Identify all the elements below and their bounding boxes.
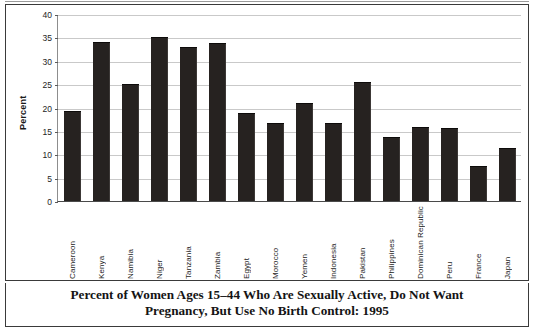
y-axis-tick-labels: 0510152025303540 [28,15,52,202]
bar [470,166,487,201]
y-axis-tick-label: 10 [30,150,52,160]
bar [383,137,400,201]
y-axis-tick-label: 25 [30,80,52,90]
y-axis-tick-label: 40 [30,10,52,20]
chart-panel: Percent 0510152025303540 CameroonKenyaNa… [5,4,529,281]
x-axis-category-label: France [474,205,483,279]
bar [412,127,429,201]
y-axis-tick-label: 5 [30,174,52,184]
bar [151,37,168,201]
bar [64,111,81,201]
x-axis-category-label: Japan [503,205,512,279]
x-axis-category-label: Zambia [213,205,222,279]
x-axis-category-label: Tanzania [184,205,193,279]
y-axis-tick-mark [55,38,58,39]
x-axis-category-label: Pakistan [358,205,367,279]
x-axis-category-label: Kenya [97,205,106,279]
bar [296,103,313,201]
x-axis-category-label: Morocco [271,205,280,279]
y-axis-tick-mark [55,15,58,16]
y-axis-tick-label: 35 [30,33,52,43]
chart-title-panel: Percent of Women Ages 15–44 Who Are Sexu… [5,283,529,327]
bar [238,113,255,201]
x-axis-category-label: Niger [155,205,164,279]
x-axis-category-labels: CameroonKenyaNamibiaNigerTanzaniaZambiaE… [57,205,521,281]
y-axis-tick-mark [55,179,58,180]
bar [499,148,516,201]
top-rule [5,1,529,2]
y-axis-tick-mark [55,132,58,133]
chart-title-line-1: Percent of Women Ages 15–44 Who Are Sexu… [71,287,464,302]
bar [325,123,342,201]
bar [180,47,197,201]
x-axis-category-label: Peru [445,205,454,279]
bar [354,82,371,201]
chart-title: Percent of Women Ages 15–44 Who Are Sexu… [14,287,520,319]
y-axis-tick-label: 0 [30,197,52,207]
figure-container: Percent 0510152025303540 CameroonKenyaNa… [0,0,534,331]
y-axis-tick-label: 20 [30,104,52,114]
y-axis-tick-mark [55,62,58,63]
bar [122,84,139,201]
plot-area [57,15,521,202]
x-axis-category-label: Namibia [126,205,135,279]
x-axis-category-label: Yemen [300,205,309,279]
x-axis-category-label: Indonesia [329,205,338,279]
x-axis-category-label: Dominican Republic [416,205,425,279]
y-axis-tick-mark [55,155,58,156]
x-axis-category-label: Egypt [242,205,251,279]
y-axis-tick-label: 30 [30,57,52,67]
x-axis-category-label: Philippines [387,205,396,279]
chart-title-line-2: Pregnancy, But Use No Birth Control: 199… [145,303,389,318]
y-axis-tick-mark [55,109,58,110]
x-axis-category-label: Cameroon [68,205,77,279]
bar [441,128,458,201]
bar [209,43,226,201]
y-axis-tick-label: 15 [30,127,52,137]
y-axis-tick-mark [55,202,58,203]
bar [267,123,284,201]
y-axis-tick-mark [55,85,58,86]
bar-series [58,15,521,201]
bar [93,42,110,201]
